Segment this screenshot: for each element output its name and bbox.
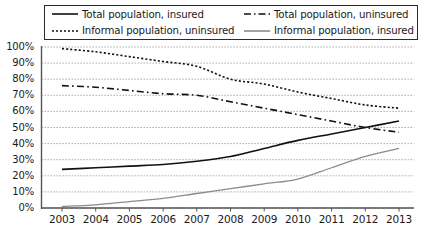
x-axis-tick-labels: 2003200420052006200720082009201020112012… (0, 0, 422, 236)
x-axis-tick-label: 2011 (319, 214, 345, 225)
x-axis-tick-label: 2004 (83, 214, 109, 225)
x-axis-tick-label: 2009 (251, 214, 277, 225)
x-axis-tick-label: 2006 (150, 214, 176, 225)
x-axis-tick-label: 2005 (116, 214, 142, 225)
x-axis-tick-label: 2007 (184, 214, 210, 225)
line-chart: Total population, insured Total populati… (0, 0, 422, 236)
x-axis-tick-label: 2003 (49, 214, 75, 225)
x-axis-tick-label: 2010 (285, 214, 311, 225)
x-axis-tick-label: 2013 (386, 214, 412, 225)
x-axis-tick-label: 2008 (218, 214, 244, 225)
x-axis-tick-label: 2012 (352, 214, 378, 225)
